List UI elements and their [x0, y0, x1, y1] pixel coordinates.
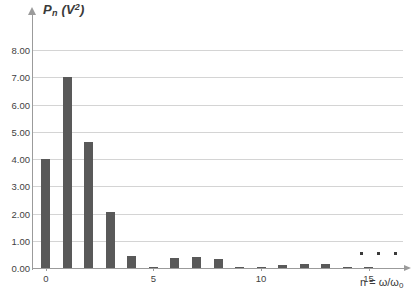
bar-chart: Pn (V2) 8.007.006.005.004.003.002.001.00… [0, 0, 415, 303]
bar [63, 77, 72, 268]
bar [127, 256, 136, 268]
bars-layer [33, 50, 403, 268]
y-axis-tick-label: 5.00 [0, 126, 30, 137]
bar [84, 142, 93, 268]
x-axis-tick-label: 0 [43, 273, 48, 284]
y-axis-tick-label: 1.00 [0, 235, 30, 246]
x-axis-title-subscript: 0 [399, 281, 403, 290]
ellipsis-dot [394, 252, 397, 255]
y-axis-tick-labels: 8.007.006.005.004.003.002.001.000.00 [0, 50, 30, 268]
x-axis-tick [153, 268, 154, 271]
x-axis-line [33, 268, 405, 269]
x-axis-tick-label: 15 [363, 273, 374, 284]
y-axis-title-main: P [43, 2, 52, 17]
y-axis-title-unit-close: ) [80, 2, 85, 17]
bar [192, 257, 201, 268]
bar [170, 258, 179, 268]
bar [214, 259, 223, 268]
x-axis-tick-label: 5 [151, 273, 156, 284]
x-axis-tick [46, 268, 47, 271]
y-axis-tick-label: 6.00 [0, 99, 30, 110]
y-axis-title-unit-open: (V [58, 2, 75, 17]
y-axis-tick-label: 2.00 [0, 208, 30, 219]
bar [41, 159, 50, 268]
x-axis-tick [261, 268, 262, 271]
x-axis-tick-label: 10 [256, 273, 267, 284]
right-arrow-icon [404, 265, 411, 271]
y-axis-tick-label: 8.00 [0, 45, 30, 56]
y-axis-tick-label: 7.00 [0, 72, 30, 83]
y-axis-tick-label: 0.00 [0, 263, 30, 274]
ellipsis-dot [360, 252, 363, 255]
ellipsis-dot [377, 252, 380, 255]
y-axis-title: Pn (V2) [43, 2, 85, 18]
continuation-ellipsis [360, 252, 406, 260]
y-axis-tick-label: 4.00 [0, 154, 30, 165]
x-axis-tick [369, 268, 370, 271]
bar [106, 212, 115, 268]
y-axis-tick-label: 3.00 [0, 181, 30, 192]
